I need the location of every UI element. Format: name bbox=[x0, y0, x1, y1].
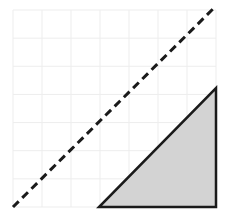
geometry-figure bbox=[0, 0, 227, 219]
figure-container bbox=[0, 0, 227, 219]
